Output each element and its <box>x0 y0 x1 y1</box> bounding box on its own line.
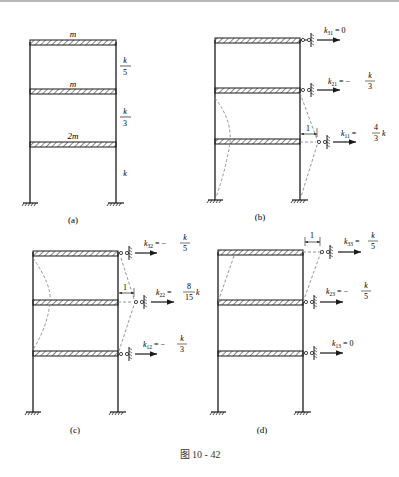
svg-text:8: 8 <box>187 282 191 291</box>
svg-text:3: 3 <box>374 134 378 143</box>
link-support-icon <box>317 135 330 149</box>
fixed-support-icon <box>22 203 124 206</box>
link-support-icon <box>320 245 333 259</box>
svg-text:k: k <box>364 281 368 290</box>
svg-text:5: 5 <box>371 242 375 251</box>
svg-text:k: k <box>183 233 187 242</box>
unit-displacement-label: 1 <box>123 283 127 292</box>
figure-caption: 图 10 - 42 <box>180 449 221 460</box>
coeff-k22: k22= <box>156 288 172 298</box>
panel-c: 1 k32= − k 5 k22= 8 15 k k12= − k 3 (c) <box>25 233 200 435</box>
panel-label: (b) <box>255 212 266 222</box>
stiffness-den: 3 <box>123 119 127 128</box>
figure-10-42: m m 2m k 5 k 3 k (a) <box>0 0 399 477</box>
svg-text:k: k <box>368 71 372 80</box>
panel-b: 1 k31= 0 k21= − k 3 k11= 4 3 k (b) <box>207 26 386 222</box>
panel-a: m m 2m k 5 k 3 k (a) <box>22 29 131 225</box>
svg-text:k: k <box>180 334 184 343</box>
link-support-icon <box>300 33 314 47</box>
coeff-k23: k23= − <box>326 287 349 297</box>
svg-text:k: k <box>371 231 375 240</box>
svg-text:3: 3 <box>180 345 184 354</box>
panel-label: (c) <box>70 425 80 435</box>
unit-displacement-label: 1 <box>310 231 314 240</box>
link-support-icon <box>304 295 317 309</box>
coeff-k31: k31= 0 <box>324 26 346 36</box>
mass-label: m <box>70 29 77 39</box>
svg-text:5: 5 <box>183 244 187 253</box>
panel-label: (a) <box>68 215 78 225</box>
svg-text:k: k <box>382 129 386 138</box>
coeff-k21: k21= − <box>328 77 351 87</box>
svg-text:15: 15 <box>185 293 193 302</box>
link-support-icon <box>134 295 147 309</box>
stiffness-den: 5 <box>123 68 127 77</box>
coeff-k11: k11= <box>341 129 357 139</box>
stiffness-label: k <box>123 169 127 178</box>
link-support-icon <box>301 83 314 97</box>
stiffness-num: k <box>123 107 127 116</box>
mass-label: m <box>70 79 77 89</box>
svg-text:4: 4 <box>374 123 378 132</box>
svg-text:k: k <box>196 288 200 297</box>
link-support-icon <box>119 347 132 361</box>
link-support-icon <box>119 246 132 260</box>
mass-label: 2m <box>68 131 80 141</box>
svg-text:3: 3 <box>368 82 372 91</box>
beam-floor-2 <box>30 89 116 94</box>
coeff-k33: k33= <box>344 237 360 247</box>
svg-text:5: 5 <box>364 292 368 301</box>
coeff-k32: k32= − <box>144 239 167 249</box>
coeff-k13: k13= 0 <box>332 339 354 349</box>
coeff-k12: k12= − <box>143 340 166 350</box>
stiffness-num: k <box>123 56 127 65</box>
panel-d: 1 k33= k 5 k23= − k 5 k13= 0 (d) <box>210 231 378 435</box>
beam-floor-3 <box>30 40 116 45</box>
beam-floor-1 <box>30 142 116 147</box>
link-support-icon <box>304 346 317 360</box>
panel-label: (d) <box>257 425 268 435</box>
unit-displacement-label: 1 <box>306 124 310 133</box>
